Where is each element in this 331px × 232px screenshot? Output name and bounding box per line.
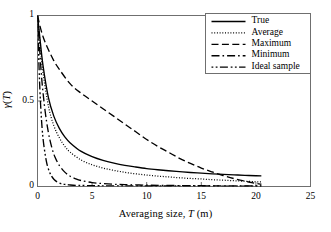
x-axis-title-post: (m) xyxy=(194,208,212,219)
x-tick-label-0: 0 xyxy=(24,191,52,201)
x-axis-title-pre: Averaging size, xyxy=(119,208,188,219)
x-tick-label-1: 5 xyxy=(78,191,106,201)
y-axis-title-symbol: γ xyxy=(1,104,12,108)
legend-label-true: True xyxy=(252,15,270,25)
figure: Averaging size, T (m) γ(T) 0510152025 00… xyxy=(0,0,331,232)
x-tick-label-3: 15 xyxy=(187,191,215,201)
y-tick-label-0: 0 xyxy=(8,180,34,190)
y-tick-label-2: 1 xyxy=(8,9,34,19)
y-tick-label-1: 0.5 xyxy=(8,95,34,105)
legend-label-ideal-sample: Ideal sample xyxy=(252,61,300,71)
x-tick-label-4: 20 xyxy=(242,191,270,201)
legend-label-average: Average xyxy=(252,27,283,37)
x-tick-label-5: 25 xyxy=(297,191,325,201)
legend-label-maximum: Maximum xyxy=(252,38,292,48)
legend-label-minimum: Minimum xyxy=(252,49,290,59)
x-tick-label-2: 10 xyxy=(133,191,161,201)
x-axis-title: Averaging size, T (m) xyxy=(0,208,331,219)
